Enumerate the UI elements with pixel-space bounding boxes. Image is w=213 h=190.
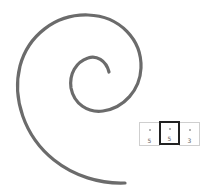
cell-value: 5 (161, 135, 178, 142)
dot-icon (169, 128, 171, 130)
cell-value: 5 (140, 137, 159, 144)
spiral-drawing (0, 0, 213, 190)
dot-icon (189, 129, 191, 131)
digit-cell-1[interactable]: 5 (139, 122, 160, 146)
cell-value: 3 (180, 137, 199, 144)
digit-cell-2-selected[interactable]: 5 (159, 121, 180, 145)
digit-cells: 5 5 3 (139, 122, 200, 146)
spiral-curve (18, 15, 141, 183)
dot-icon (149, 129, 151, 131)
digit-cell-3[interactable]: 3 (179, 122, 200, 146)
